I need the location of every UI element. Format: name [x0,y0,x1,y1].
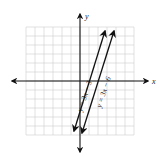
x-axis-label: x [151,77,156,86]
y-axis-label: y [84,12,89,21]
coordinate-plane: x y y = 3x − 3 y = 3x − 6 [0,0,165,157]
equation-label-1: y = 3x − 3 [75,79,94,113]
